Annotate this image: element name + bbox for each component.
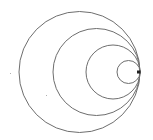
- speck-group: [10, 73, 47, 96]
- tangent-point-marker: [137, 71, 141, 74]
- speck-2: [46, 95, 47, 96]
- circle-4: [117, 61, 140, 84]
- circle-1: [19, 12, 140, 133]
- circle-2: [53, 29, 140, 116]
- circle-3: [86, 45, 140, 99]
- tangent-point-dot: [137, 71, 141, 74]
- speck-1: [10, 73, 11, 74]
- circle-group: [19, 12, 140, 133]
- tangent-circles-diagram: [0, 0, 153, 140]
